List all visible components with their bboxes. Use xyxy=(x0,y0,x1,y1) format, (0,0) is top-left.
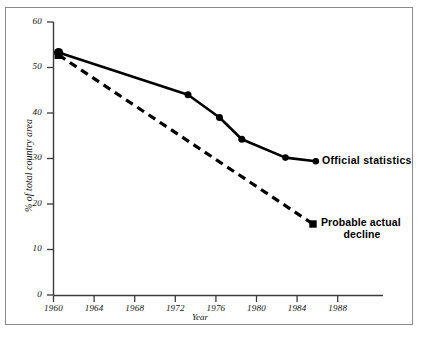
x-tick-label: 1980 xyxy=(239,303,275,313)
data-point xyxy=(309,220,316,227)
y-tick-label: 0 xyxy=(20,289,42,299)
y-tick-label: 10 xyxy=(20,243,42,253)
x-axis-ticks xyxy=(54,296,338,303)
data-point xyxy=(216,114,223,121)
y-tick-label: 60 xyxy=(20,16,42,26)
data-point xyxy=(282,154,289,161)
data-point xyxy=(185,91,192,98)
series-label-line-1: Probable actual xyxy=(321,216,401,228)
series-label-official-statistics: Official statistics xyxy=(322,154,412,166)
series-line-official-statistics xyxy=(59,53,316,162)
data-point xyxy=(55,51,63,59)
x-tick-label: 1984 xyxy=(279,303,315,313)
data-point xyxy=(238,136,245,143)
chart-plot-area xyxy=(0,0,424,340)
series-markers-official-statistics xyxy=(54,48,319,165)
series-line-probable-actual-decline xyxy=(59,55,313,224)
series-label-probable-actual-decline: Probable actual decline xyxy=(321,216,415,240)
y-axis-title: % of total country area xyxy=(23,96,34,236)
data-point xyxy=(313,158,320,165)
chart-figure: 60 50 40 30 20 10 0 1960 1964 1968 1972 … xyxy=(0,0,424,340)
x-axis-title: Year xyxy=(170,312,230,322)
x-tick-label: 1964 xyxy=(76,303,112,313)
x-tick-label: 1968 xyxy=(117,303,153,313)
y-axis-ticks xyxy=(47,22,54,295)
y-tick-label: 50 xyxy=(20,61,42,71)
x-tick-label: 1960 xyxy=(36,303,72,313)
series-label-line-2: decline xyxy=(321,228,403,240)
x-tick-label: 1988 xyxy=(320,303,356,313)
